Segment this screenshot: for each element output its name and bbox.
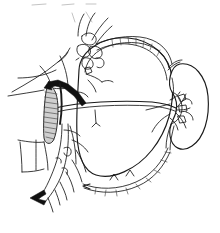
figure-canvas — [0, 0, 220, 233]
anatomical-figure: Anatomical line drawing of abdominal vis… — [0, 0, 220, 233]
hatched-tubular-structure — [44, 86, 58, 144]
